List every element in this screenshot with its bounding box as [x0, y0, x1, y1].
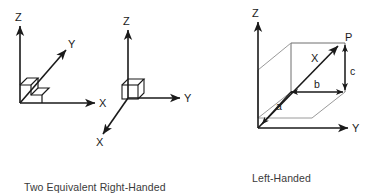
component-b-label: b: [314, 78, 320, 90]
system-a-y-axis: [20, 50, 66, 103]
system-b-y-label: Y: [184, 92, 192, 104]
point-p-label: P: [345, 31, 352, 43]
right-handed-system-a-group: Z Y X: [15, 11, 107, 109]
lh-x-label: X: [311, 52, 319, 64]
right-caption-line-1: Left-Handed: [252, 171, 311, 185]
system-a-z-label: Z: [15, 11, 22, 23]
construction-box: [258, 43, 345, 118]
system-b-z-label: Z: [123, 15, 130, 27]
system-a-y-label: Y: [68, 38, 76, 50]
figure-root: Z Y X Z Y X: [0, 0, 375, 194]
system-a-x-label: X: [99, 97, 107, 109]
component-a-label: a: [276, 100, 282, 112]
lh-y-label: Y: [352, 122, 360, 134]
system-b-origin-cube-icon: [116, 79, 144, 105]
component-c-label: c: [350, 65, 355, 77]
right-panel-caption: Left-Handed Coordinate System: [252, 143, 311, 194]
lh-z-label: Z: [252, 7, 259, 19]
left-caption-line-1: Two Equivalent Right-Handed: [24, 180, 166, 194]
left-panel-caption: Two Equivalent Right-Handed Coordinate S…: [24, 152, 166, 194]
system-b-x-label: X: [96, 136, 104, 148]
right-handed-system-b-group: Z Y X: [96, 15, 192, 148]
system-a-origin-corner-icon: [20, 78, 49, 103]
left-handed-system-group: Z X Y P a b c: [252, 7, 360, 134]
